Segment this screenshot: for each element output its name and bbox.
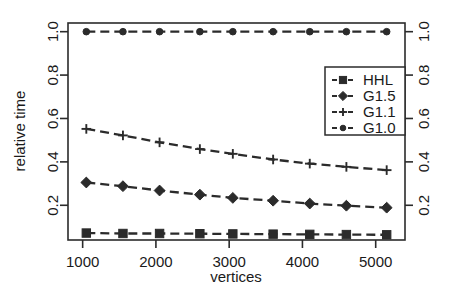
x-tick-label: 5000: [359, 253, 392, 270]
x-tick-label: 4000: [286, 253, 319, 270]
y-tick-label-right: 0.8: [415, 65, 432, 86]
y-tick-label-left: 0.4: [44, 151, 61, 172]
marker-square: [342, 230, 350, 238]
x-tick-label: 1000: [66, 253, 99, 270]
x-tick-label: 2000: [139, 253, 172, 270]
y-tick-label-left: 0.2: [44, 195, 61, 216]
marker-circle: [230, 28, 237, 35]
y-tick-label-left: 0.6: [44, 108, 61, 129]
x-axis-title: vertices: [210, 268, 262, 285]
marker-circle: [383, 28, 390, 35]
y-tick-label-right: 0.6: [415, 108, 432, 129]
marker-square: [306, 230, 314, 238]
legend-item-label: HHL: [363, 71, 393, 88]
chart-container: 10002000300040005000 0.20.40.60.81.0 0.2…: [0, 0, 457, 299]
y-tick-label-left: 0.8: [44, 65, 61, 86]
chart-legend: HHLG1.5G1.1G1.0: [325, 67, 405, 136]
marker-circle: [270, 28, 277, 35]
legend-item-label: G1.0: [363, 119, 396, 136]
marker-circle: [197, 28, 204, 35]
marker-square: [269, 230, 277, 238]
legend-item-label: G1.5: [363, 87, 396, 104]
legend-item-label: G1.1: [363, 103, 396, 120]
marker-circle: [83, 28, 90, 35]
marker-square: [339, 76, 346, 83]
marker-square: [229, 230, 237, 238]
marker-square: [382, 231, 390, 239]
marker-circle: [343, 28, 350, 35]
y-tick-label-left: 1.0: [44, 21, 61, 42]
marker-circle: [306, 28, 313, 35]
marker-circle: [340, 125, 346, 131]
marker-circle: [156, 28, 163, 35]
relative-time-vs-vertices-chart: 10002000300040005000 0.20.40.60.81.0 0.2…: [0, 0, 457, 299]
y-tick-label-right: 0.4: [415, 151, 432, 172]
marker-square: [119, 229, 127, 237]
marker-circle: [120, 28, 127, 35]
marker-square: [82, 229, 90, 237]
marker-square: [196, 230, 204, 238]
marker-square: [155, 229, 163, 237]
y-axis-title: relative time: [11, 91, 28, 172]
y-tick-label-right: 1.0: [415, 21, 432, 42]
y-tick-label-right: 0.2: [415, 195, 432, 216]
